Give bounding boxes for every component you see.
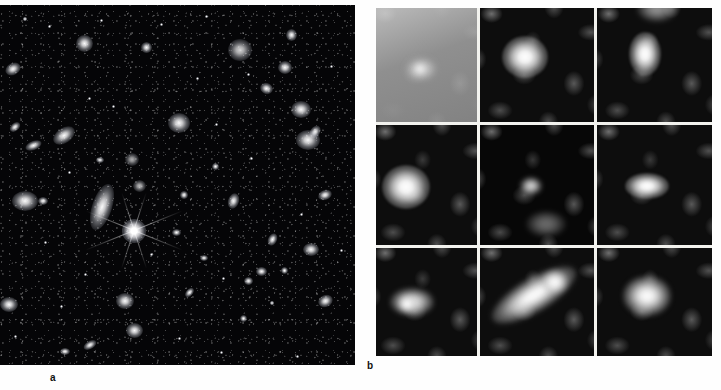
cell-r1c3: [597, 8, 712, 122]
cell-background: [376, 248, 477, 356]
cell-background: [480, 8, 594, 122]
cell-r3c3: [597, 248, 712, 356]
cell-background: [597, 248, 712, 356]
panel-b-label: b: [367, 361, 373, 371]
star-core: [122, 219, 146, 243]
panel-b: [376, 8, 712, 356]
cell-background: [376, 125, 477, 245]
deep-field-image: [0, 5, 355, 365]
cell-r3c1: [376, 248, 477, 356]
cell-background: [597, 8, 712, 122]
cell-r1c2: [480, 8, 594, 122]
panel-a: [0, 5, 355, 365]
cell-background: [480, 248, 594, 356]
cell-r2c1: [376, 125, 477, 245]
bright-star-with-diffraction-spikes: [104, 201, 164, 261]
cell-background: [597, 125, 712, 245]
cell-r2c2: [480, 125, 594, 245]
cell-background: [480, 125, 594, 245]
cell-r3c2: [480, 248, 594, 356]
cell-r1c1: [376, 8, 477, 122]
cell-r2c3: [597, 125, 712, 245]
panel-a-label: a: [50, 373, 56, 383]
sky-noise-layer-2: [0, 5, 355, 365]
cell-background: [376, 8, 477, 122]
figure-root: a b: [0, 0, 721, 390]
